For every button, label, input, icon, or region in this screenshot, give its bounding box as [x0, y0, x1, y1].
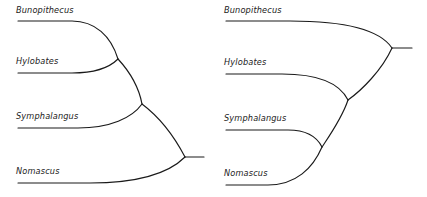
right-label-bunopithecus: Bunopithecus [224, 6, 282, 14]
right-tree-branches [226, 21, 412, 185]
right-cladogram-graphic [0, 0, 427, 197]
branch-right-bunopithecus [226, 21, 392, 48]
branch-right-symphalangus [226, 130, 322, 147]
right-label-symphalangus: Symphalangus [224, 114, 286, 122]
right-label-nomascus: Nomascus [224, 169, 268, 177]
branch-right-hylobates [226, 74, 348, 100]
branch-right-nomascus [226, 147, 322, 185]
figure-canvas: Bunopithecus Hylobates Symphalangus Noma… [0, 0, 427, 197]
right-label-hylobates: Hylobates [224, 58, 266, 66]
branch-right-hsn-stem [348, 48, 392, 100]
branch-right-sym-nom-stem [322, 100, 348, 147]
